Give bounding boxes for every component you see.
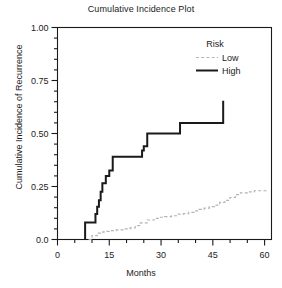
x-axis-ticks: 015304560 bbox=[55, 240, 270, 260]
x-tick-label: 60 bbox=[260, 250, 270, 260]
series-line-high bbox=[85, 101, 223, 240]
legend-label-high: High bbox=[222, 66, 241, 76]
x-tick-label: 30 bbox=[156, 250, 166, 260]
y-tick-label: 1.00 bbox=[31, 23, 49, 33]
data-series-layer bbox=[85, 101, 266, 240]
y-axis-ticks: 0.00.250.500.751.00 bbox=[31, 23, 58, 245]
x-tick-label: 0 bbox=[55, 250, 60, 260]
y-tick-label: 0.25 bbox=[31, 182, 49, 192]
y-tick-label: 0.0 bbox=[36, 235, 49, 245]
x-tick-label: 15 bbox=[104, 250, 114, 260]
y-tick-label: 0.75 bbox=[31, 76, 49, 86]
cumulative-incidence-chart: Cumulative Incidence Plot Cumulative Inc… bbox=[0, 0, 282, 288]
legend-label-low: Low bbox=[222, 53, 239, 63]
legend: RiskLowHigh bbox=[196, 39, 241, 76]
legend-title: Risk bbox=[206, 39, 224, 49]
y-tick-label: 0.50 bbox=[31, 129, 49, 139]
x-tick-label: 45 bbox=[208, 250, 218, 260]
plot-surface: 015304560 0.00.250.500.751.00 RiskLowHig… bbox=[0, 0, 282, 288]
series-line-low bbox=[89, 190, 267, 240]
